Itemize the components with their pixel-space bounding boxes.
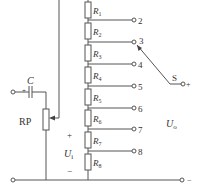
r8-label: R8 [92, 158, 102, 169]
tap-label-2: 2 [138, 16, 143, 26]
ui-plus: + [67, 130, 72, 140]
r2-label: R2 [92, 27, 102, 38]
wiper-arrow-icon [49, 116, 55, 121]
output-minus-terminal [180, 178, 184, 182]
tap-label-4: 4 [138, 60, 143, 70]
r7-label: R7 [92, 136, 102, 147]
tap-label-3: 3 [139, 36, 144, 46]
resistor-r1 [85, 2, 91, 18]
circuit-diagram: C + RP + Ui − R1 R2 R3 R4 R5 R6 R7 R8 2 … [0, 0, 199, 189]
resistor-r8 [85, 154, 91, 170]
r4-label: R4 [92, 71, 102, 82]
output-plus-label: + [186, 80, 191, 89]
tap-terminal-4[interactable] [132, 62, 136, 66]
output-plus-terminal [181, 82, 185, 86]
resistor-r2 [85, 23, 91, 39]
r3-label: R3 [92, 49, 102, 60]
tap-terminal-6[interactable] [132, 106, 136, 110]
r5-label: R5 [92, 93, 102, 104]
uo-label: Uo [166, 118, 177, 131]
tap-label-5: 5 [138, 82, 143, 92]
input-terminal [11, 90, 15, 94]
tap-terminal-5[interactable] [132, 84, 136, 88]
resistor-r7 [85, 132, 91, 148]
tap-terminal-7[interactable] [132, 127, 136, 131]
capacitor-polarity: + [22, 87, 26, 95]
input-ground-terminal [11, 178, 15, 182]
tap-label-7: 7 [138, 125, 143, 135]
output-minus-label: − [187, 176, 192, 185]
resistor-r5 [85, 89, 91, 105]
capacitor-label: C [27, 75, 34, 86]
potentiometer-rp [43, 109, 49, 130]
potentiometer-label: RP [19, 116, 32, 127]
tap-label-6: 6 [138, 104, 143, 114]
tap-terminal-2[interactable] [132, 18, 136, 22]
r6-label: R6 [92, 114, 102, 125]
ui-label: Ui [64, 148, 73, 161]
resistor-r3 [85, 45, 91, 61]
resistor-r6 [85, 110, 91, 126]
tap-label-8: 8 [138, 147, 143, 157]
switch-label: S [172, 73, 177, 83]
ui-minus: − [67, 166, 72, 176]
tap-terminal-8[interactable] [132, 149, 136, 153]
resistor-r4 [85, 67, 91, 83]
tap-terminal-3[interactable] [132, 40, 136, 44]
r1-label: R1 [92, 6, 102, 17]
